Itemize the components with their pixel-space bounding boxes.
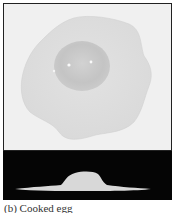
egg-top-view-panel (3, 3, 172, 151)
egg-profile-silhouette (15, 172, 151, 191)
figure-caption: (b) Cooked egg (4, 202, 72, 213)
egg-side-profile-panel (3, 151, 172, 200)
egg-side-profile-image (3, 151, 172, 200)
yolk-highlight (53, 70, 55, 72)
egg-yolk (54, 41, 110, 91)
yolk-highlight (90, 61, 93, 64)
egg-top-view-image (4, 4, 172, 151)
yolk-highlight (67, 63, 70, 66)
